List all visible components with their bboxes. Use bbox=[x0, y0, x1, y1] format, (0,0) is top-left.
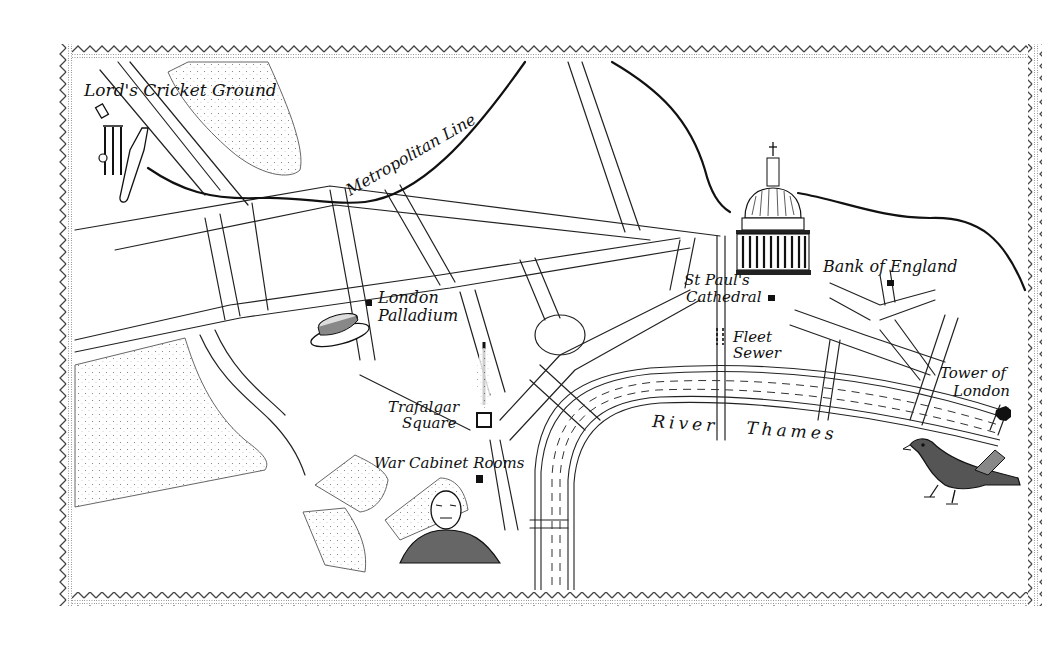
st-pauls-marker bbox=[768, 295, 775, 301]
raven-icon bbox=[903, 439, 1020, 504]
boater-hat-icon bbox=[309, 310, 372, 351]
label-palladium-2: Palladium bbox=[377, 306, 458, 325]
label-river-thames: River Thames bbox=[651, 411, 839, 444]
label-trafalgar-2: Square bbox=[402, 414, 457, 432]
war-cabinet-marker bbox=[476, 475, 483, 483]
palladium-marker bbox=[366, 300, 372, 306]
metropolitan-line-east bbox=[612, 62, 730, 212]
nelsons-column-icon bbox=[477, 342, 491, 408]
fleet-sewer-line bbox=[717, 328, 723, 345]
label-palladium-1: London bbox=[377, 288, 439, 307]
label-tower-1: Tower of bbox=[940, 364, 1009, 382]
label-st-pauls-1: St Paul's bbox=[684, 271, 750, 289]
label-fleet-2: Sewer bbox=[733, 344, 782, 362]
label-bank-of-england: Bank of England bbox=[822, 257, 957, 276]
label-war-cabinet: War Cabinet Rooms bbox=[374, 454, 525, 472]
label-lords: Lord's Cricket Ground bbox=[83, 80, 277, 100]
label-tower-2: London bbox=[952, 382, 1010, 400]
dome-icon bbox=[736, 142, 811, 275]
bank-marker bbox=[887, 280, 894, 286]
hyde-park bbox=[75, 338, 267, 507]
map-markers bbox=[366, 280, 1011, 483]
label-st-pauls-2: Cathedral bbox=[686, 288, 762, 306]
london-map: Lord's Cricket Ground Metropolitan Line … bbox=[0, 0, 1056, 652]
trafalgar-marker bbox=[477, 413, 491, 427]
st-james-park-2 bbox=[303, 508, 366, 572]
regents-park bbox=[168, 62, 301, 175]
